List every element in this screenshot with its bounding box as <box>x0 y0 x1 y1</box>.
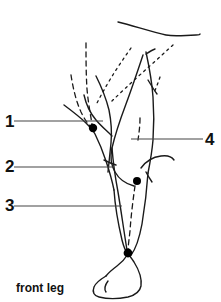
leg-outline-group <box>64 22 200 299</box>
dotted-diagonal-inner-path <box>96 48 131 105</box>
dashed-right-thigh-path <box>138 118 140 140</box>
label-1: 1 <box>5 113 14 130</box>
figure-front-leg: 1 2 3 4 front leg <box>0 0 221 302</box>
label-4: 4 <box>205 131 214 148</box>
point-upper-dot <box>89 124 97 132</box>
rear-leg-contour-upper-path <box>146 52 154 173</box>
hoof-inner-crease-path <box>105 281 108 292</box>
dashed-cannon-path <box>128 186 135 251</box>
dotted-rear-stub-path <box>154 77 160 93</box>
leg-diagram-svg <box>0 0 221 302</box>
fetlock-path <box>106 254 128 276</box>
figure-caption: front leg <box>16 281 64 295</box>
dotted-guides-group <box>96 45 173 105</box>
point-lower-dot <box>124 249 133 258</box>
dotted-diagonal-outer-path <box>111 45 173 102</box>
outer-front-thigh-path <box>64 105 114 190</box>
acupoint-dots-group <box>89 124 141 258</box>
rear-contour-branch-path <box>146 49 155 54</box>
hoof-outline-path <box>93 254 141 299</box>
thigh-muscle-belly-path <box>111 55 143 186</box>
top-body-contour-path <box>118 22 200 36</box>
dashed-guides-group <box>71 43 140 251</box>
hock-hook-path <box>141 156 174 168</box>
label-2: 2 <box>5 158 14 175</box>
label-3: 3 <box>5 197 14 214</box>
point-middle-dot <box>133 177 141 185</box>
